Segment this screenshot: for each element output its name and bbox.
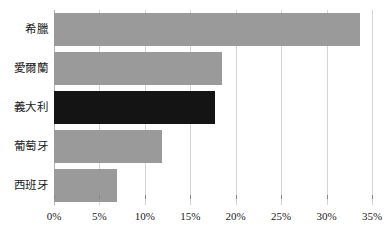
x-tick-label: 20% — [216, 210, 256, 222]
x-tick-label: 25% — [261, 210, 301, 222]
category-label: 義大利 — [0, 91, 48, 124]
x-tick-label: 5% — [79, 210, 119, 222]
category-label: 希臘 — [0, 13, 48, 46]
x-tick-label: 0% — [34, 210, 74, 222]
bar-4[interactable] — [54, 130, 162, 163]
tick-mark-0pct — [54, 195, 55, 199]
bar-row — [54, 52, 222, 85]
tick-mark-20pct — [236, 195, 237, 199]
bar-5[interactable] — [54, 169, 117, 202]
x-tick-label: 10% — [125, 210, 165, 222]
x-tick-label: 30% — [307, 210, 347, 222]
bar-3[interactable] — [54, 91, 215, 124]
tick-mark-35pct — [372, 195, 373, 199]
tick-mark-15pct — [190, 195, 191, 199]
category-label: 西班牙 — [0, 169, 48, 202]
bar-row — [54, 13, 360, 46]
tick-mark-25pct — [281, 195, 282, 199]
tick-mark-5pct — [99, 195, 100, 199]
gridline-35pct — [372, 10, 373, 205]
category-label: 葡萄牙 — [0, 130, 48, 163]
tick-mark-30pct — [327, 195, 328, 199]
bar-2[interactable] — [54, 52, 222, 85]
y-axis-category-labels: 希臘愛爾蘭義大利葡萄牙西班牙 — [0, 10, 50, 205]
tick-mark-10pct — [145, 195, 146, 199]
x-tick-label: 35% — [352, 210, 386, 222]
bar-chart: 希臘愛爾蘭義大利葡萄牙西班牙 0%5%10%15%20%25%30%35% — [0, 0, 386, 231]
bar-row — [54, 91, 215, 124]
plot-area — [54, 10, 372, 205]
bar-1[interactable] — [54, 13, 360, 46]
category-label: 愛爾蘭 — [0, 52, 48, 85]
bar-row — [54, 169, 117, 202]
x-tick-label: 15% — [170, 210, 210, 222]
bar-row — [54, 130, 162, 163]
